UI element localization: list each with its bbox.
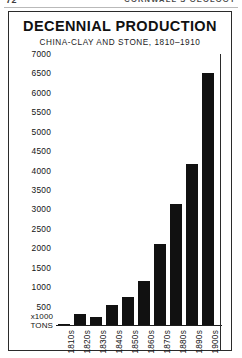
y-axis-tick-label: 2500 bbox=[32, 224, 51, 234]
bar[interactable] bbox=[186, 164, 198, 326]
chart-title: DECENNIAL PRODUCTION bbox=[9, 19, 231, 34]
y-axis-tick-label: 500 bbox=[36, 302, 51, 312]
y-axis-unit-label: x1000 TONS bbox=[13, 312, 53, 331]
bar[interactable] bbox=[170, 204, 182, 326]
bar-slot bbox=[136, 54, 152, 326]
bar-slot bbox=[200, 54, 216, 326]
bar-slot bbox=[72, 54, 88, 326]
y-axis-tick-label: 2000 bbox=[32, 243, 51, 253]
bar-slot bbox=[56, 54, 72, 326]
header-divider bbox=[4, 7, 238, 8]
y-axis-tick-label: 4000 bbox=[32, 166, 51, 176]
x-axis-tick-label: 1880s bbox=[178, 330, 188, 354]
running-head-text: CORNWALL'S GEOLOGY bbox=[124, 0, 236, 4]
y-axis-unit-line1: x1000 bbox=[13, 312, 53, 321]
bar-slot bbox=[88, 54, 104, 326]
y-axis-tick-label: 1000 bbox=[32, 282, 51, 292]
y-axis-tick-label: 6000 bbox=[32, 88, 51, 98]
plot-right-border bbox=[220, 54, 221, 350]
bar-slot bbox=[168, 54, 184, 326]
y-axis-unit-line2: TONS bbox=[13, 321, 53, 330]
x-axis-tick-label: 1850s bbox=[130, 330, 140, 354]
plot-area: 5001000150020002500300035004000450050005… bbox=[9, 54, 231, 350]
x-axis-tick-label: 1820s bbox=[82, 330, 92, 354]
y-axis-tick-label: 3000 bbox=[32, 204, 51, 214]
y-axis-tick-label: 7000 bbox=[32, 49, 51, 59]
bar[interactable] bbox=[202, 73, 214, 326]
x-axis-baseline bbox=[56, 325, 222, 326]
bar[interactable] bbox=[106, 305, 118, 326]
bar[interactable] bbox=[122, 297, 134, 326]
x-axis-tick-label: 1870s bbox=[162, 330, 172, 354]
bar[interactable] bbox=[138, 281, 150, 326]
x-axis-tick-label: 1830s bbox=[98, 330, 108, 354]
x-axis-tick-label: 1840s bbox=[114, 330, 124, 354]
x-axis-tick-label: 1890s bbox=[194, 330, 204, 354]
page-number: 72 bbox=[6, 0, 17, 5]
page-running-header: 72 CORNWALL'S GEOLOGY bbox=[0, 0, 242, 9]
bar-slot bbox=[104, 54, 120, 326]
chart-subtitle: CHINA-CLAY AND STONE, 1810–1910 bbox=[9, 38, 231, 47]
bar-slot bbox=[184, 54, 200, 326]
bars-container bbox=[56, 54, 216, 326]
bar-slot bbox=[120, 54, 136, 326]
y-axis-tick-label: 5500 bbox=[32, 107, 51, 117]
y-axis-tick-label: 3500 bbox=[32, 185, 51, 195]
bar[interactable] bbox=[154, 244, 166, 326]
y-axis-tick-label: 4500 bbox=[32, 146, 51, 156]
y-axis-tick-label: 1500 bbox=[32, 263, 51, 273]
x-axis-tick-label: 1860s bbox=[146, 330, 156, 354]
figure-frame: DECENNIAL PRODUCTION CHINA-CLAY AND STON… bbox=[8, 11, 232, 351]
y-axis: 5001000150020002500300035004000450050005… bbox=[9, 54, 55, 326]
y-axis-tick-label: 5000 bbox=[32, 127, 51, 137]
x-axis-tick-label: 1900s bbox=[210, 330, 220, 354]
bar-slot bbox=[152, 54, 168, 326]
y-axis-tick-label: 6500 bbox=[32, 68, 51, 78]
x-axis-tick-label: 1810s bbox=[66, 330, 76, 354]
